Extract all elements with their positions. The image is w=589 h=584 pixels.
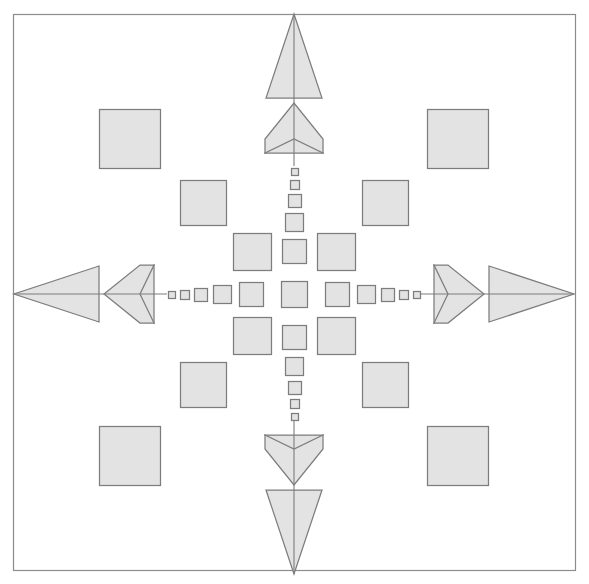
arm-square-right-4: [400, 291, 409, 300]
square-inner-top-right: [318, 234, 356, 271]
arm-square-up-5: [292, 169, 299, 176]
arm-left-arrow-group: [14, 265, 167, 323]
arm-squares-right: [326, 283, 421, 307]
arm-square-up-2: [286, 214, 304, 232]
square-mid-bottom-right: [363, 363, 409, 408]
square-mid-top-right: [363, 181, 409, 226]
arm-square-right-3: [382, 289, 395, 302]
arm-square-left-4: [181, 291, 190, 300]
arm-square-left-3: [195, 289, 208, 302]
radial-burst-figure: [0, 0, 589, 584]
square-inner-bottom-left: [234, 318, 272, 355]
diagram-canvas: [0, 0, 589, 584]
arm-square-down-5: [292, 414, 299, 421]
square-inner-top-left: [234, 234, 272, 271]
arm-squares-down: [283, 326, 307, 421]
square-outer-top-right: [428, 110, 489, 169]
arm-square-left-2: [214, 286, 232, 304]
square-mid-bottom-left: [181, 363, 227, 408]
arm-right-arrow-group: [421, 265, 574, 323]
square-outer-bottom-right: [428, 427, 489, 486]
arm-square-down-2: [286, 358, 304, 376]
arm-down-arrow-group: [265, 421, 323, 574]
arm-square-left-1: [240, 283, 264, 307]
arm-squares-left: [169, 283, 264, 307]
arm-squares-up: [283, 169, 307, 264]
arm-square-down-3: [289, 382, 302, 395]
arm-up-arrow-group: [265, 14, 323, 166]
square-inner-bottom-right: [318, 318, 356, 355]
arm-square-right-5: [414, 292, 421, 299]
arm-square-up-4: [291, 181, 300, 190]
square-outer-top-left: [100, 110, 161, 169]
center-square: [282, 282, 308, 308]
arm-square-right-1: [326, 283, 350, 307]
square-mid-top-left: [181, 181, 227, 226]
square-outer-bottom-left: [100, 427, 161, 486]
arm-square-left-5: [169, 292, 176, 299]
arm-square-up-1: [283, 240, 307, 264]
arm-square-right-2: [358, 286, 376, 304]
arm-square-down-1: [283, 326, 307, 350]
center-square-group: [282, 282, 308, 308]
arm-square-up-3: [289, 195, 302, 208]
arm-square-down-4: [291, 400, 300, 409]
